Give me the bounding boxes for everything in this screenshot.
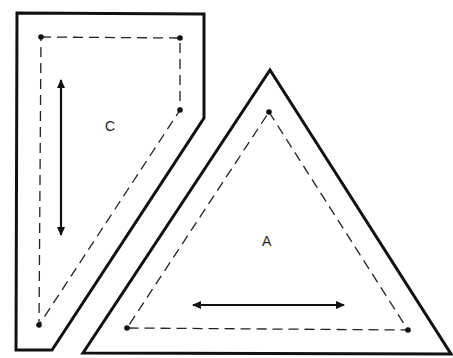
piece-a-corner-dot — [266, 109, 272, 115]
piece-c-corner-dot — [36, 322, 42, 328]
piece-a-corner-dot — [405, 327, 411, 333]
pattern-diagram: C A — [0, 0, 453, 358]
piece-c-corner-dot — [38, 34, 44, 40]
piece-c-cut-outline — [16, 13, 204, 350]
piece-a-corner-dot — [124, 325, 130, 331]
pattern-piece-c: C — [16, 13, 204, 350]
pattern-piece-a: A — [83, 70, 451, 354]
piece-c-label: C — [105, 118, 115, 134]
piece-c-corner-dot — [177, 35, 183, 41]
piece-c-corner-dot — [177, 107, 183, 113]
piece-a-label: A — [262, 233, 272, 249]
